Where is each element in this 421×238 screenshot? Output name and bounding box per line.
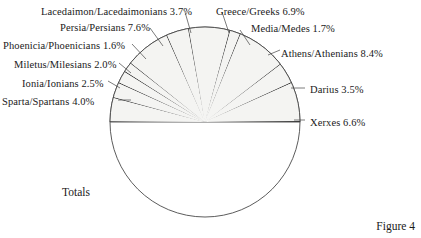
slice-label-persia: Persia/Persians 7.6% <box>60 22 150 33</box>
slice-label-miletus: Miletus/Milesians 2.0% <box>14 59 117 70</box>
slice-label-ionia: Ionia/Ionians 2.5% <box>22 78 104 89</box>
slice-label-darius: Darius 3.5% <box>310 84 364 95</box>
slice-label-sparta: Sparta/Spartans 4.0% <box>2 96 94 107</box>
slice-label-greece: Greece/Greeks 6.9% <box>216 6 305 17</box>
slice-label-athens: Athens/Athenians 8.4% <box>281 48 383 59</box>
slice-label-media: Media/Medes 1.7% <box>251 23 335 34</box>
slice-label-lacedaimon: Lacedaimon/Lacedaimonians 3.7% <box>41 6 192 17</box>
figure-caption: Figure 4 <box>376 220 415 232</box>
pie-slices-group <box>110 27 300 122</box>
totals-label: Totals <box>62 186 90 198</box>
slice-label-phoenicia: Phoenicia/Phoenicians 1.6% <box>3 40 125 51</box>
slice-label-xerxes: Xerxes 6.6% <box>310 117 365 128</box>
figure-container: Sparta/Spartans 4.0%Ionia/Ionians 2.5%Mi… <box>0 0 421 238</box>
